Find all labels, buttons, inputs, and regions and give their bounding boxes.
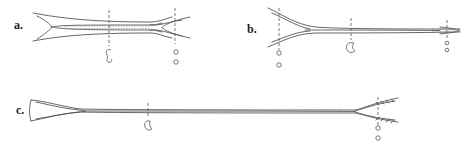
cross-section-a1 xyxy=(106,49,112,62)
cross-section-c1 xyxy=(145,121,152,130)
scientific-figure: a. b. c. xyxy=(0,0,470,151)
drawing-canvas xyxy=(0,0,470,151)
cross-section-b2 xyxy=(346,43,355,53)
panel-a-structure xyxy=(33,8,190,64)
panel-b-structure xyxy=(268,8,460,67)
panel-c-structure xyxy=(30,97,399,140)
